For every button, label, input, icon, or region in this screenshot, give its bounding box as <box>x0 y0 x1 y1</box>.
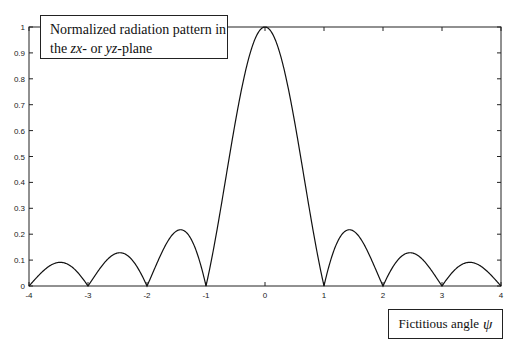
y-tick-label: 0 <box>21 282 26 291</box>
y-tick-label: 0.3 <box>14 204 26 213</box>
y-tick-label: 0.2 <box>14 230 26 239</box>
x-tick-label: -1 <box>202 291 210 300</box>
x-axis-label: Fictitious angle <box>399 316 480 332</box>
x-tick-label: 3 <box>440 291 445 300</box>
chart-title-line1: Normalized radiation pattern in <box>50 20 227 39</box>
chart-title-line2: the zx- or yz-plane <box>50 39 227 58</box>
psi-symbol: ψ <box>483 316 492 333</box>
y-tick-label: 0.7 <box>14 101 26 110</box>
x-tick-label: 4 <box>499 291 504 300</box>
chart-title-box: Normalized radiation pattern in the zx- … <box>40 15 228 59</box>
x-tick-label: -3 <box>84 291 92 300</box>
x-tick-label: 1 <box>322 291 327 300</box>
radiation-pattern-curve <box>29 27 501 286</box>
x-tick-label: -2 <box>143 291 151 300</box>
y-tick-label: 1 <box>21 23 26 32</box>
y-axis-ticks: 00.10.20.30.40.50.60.70.80.91 <box>14 23 501 291</box>
y-tick-label: 0.1 <box>14 256 26 265</box>
y-tick-label: 0.6 <box>14 127 26 136</box>
x-axis-label-box: Fictitious angle ψ <box>388 309 503 339</box>
x-tick-label: -4 <box>25 291 33 300</box>
y-tick-label: 0.9 <box>14 49 26 58</box>
y-tick-label: 0.5 <box>14 153 26 162</box>
plot-frame <box>29 27 501 286</box>
y-tick-label: 0.4 <box>14 178 26 187</box>
x-axis-ticks: -4-3-2-101234 <box>25 27 503 300</box>
y-tick-label: 0.8 <box>14 75 26 84</box>
x-tick-label: 2 <box>381 291 386 300</box>
x-tick-label: 0 <box>263 291 268 300</box>
